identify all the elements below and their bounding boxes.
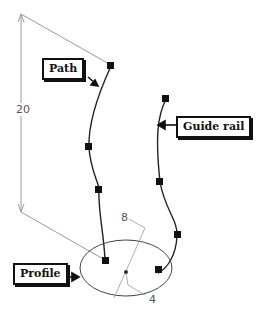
guide-point-1[interactable] [162, 95, 169, 102]
profile-arrowhead-icon [72, 273, 79, 281]
guide-rail-callout: Guide rail [176, 116, 251, 138]
path-curve [89, 66, 111, 260]
radius-a-label: 8 [121, 211, 128, 224]
path-point-4[interactable] [102, 257, 109, 264]
guide-point-3[interactable] [174, 231, 181, 238]
path-point-3[interactable] [95, 186, 102, 193]
profile-center [124, 270, 128, 274]
guide-point-4[interactable] [155, 266, 162, 273]
height-dimension-label: 20 [16, 103, 30, 116]
path-point-1[interactable] [107, 62, 114, 69]
path-callout: Path [42, 58, 84, 80]
profile-callout: Profile [13, 263, 68, 285]
radius-b-label: 4 [149, 293, 156, 306]
guide-point-2[interactable] [156, 178, 163, 185]
path-point-2[interactable] [85, 143, 92, 150]
height-dimension [18, 14, 111, 260]
profile-dimensions [114, 219, 145, 298]
